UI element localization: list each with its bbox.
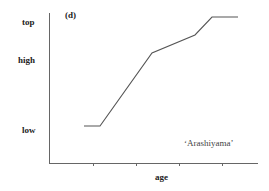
chart-plot	[0, 0, 269, 191]
series-line	[84, 17, 238, 126]
